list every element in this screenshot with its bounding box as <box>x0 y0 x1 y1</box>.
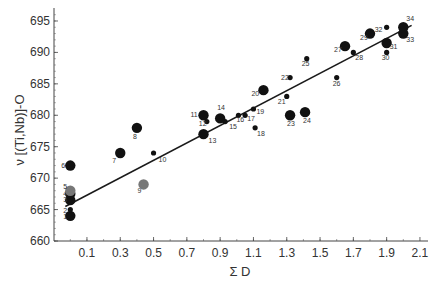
point-label: 18 <box>257 130 265 137</box>
x-tick-label: 2.1 <box>412 246 429 260</box>
data-point-7 <box>115 148 125 158</box>
point-label: 19 <box>256 108 264 115</box>
point-label: 32 <box>375 26 383 33</box>
point-label: 27 <box>334 46 342 53</box>
point-label: 13 <box>209 137 217 144</box>
x-tick-label: 1.5 <box>312 246 329 260</box>
x-tick-label: 0.5 <box>145 246 162 260</box>
y-tick-label: 685 <box>30 77 50 91</box>
y-tick-label: 690 <box>30 45 50 59</box>
point-label: 15 <box>229 123 237 130</box>
point-label: 17 <box>247 115 255 122</box>
x-tick-label: 1.3 <box>278 246 295 260</box>
y-tick-label: 675 <box>30 140 50 154</box>
data-point-20 <box>258 85 268 95</box>
point-label: 8 <box>133 133 137 140</box>
x-tick-label: 1.7 <box>345 246 362 260</box>
data-point-13 <box>198 129 208 139</box>
data-points: 1234567891011121314151617181920212223242… <box>61 15 414 221</box>
point-label: 14 <box>217 104 225 111</box>
x-tick-label: 0.3 <box>112 246 129 260</box>
y-tick-label: 680 <box>30 108 50 122</box>
point-label: 9 <box>138 187 142 194</box>
point-label: 30 <box>382 54 390 61</box>
point-label: 20 <box>251 90 259 97</box>
point-label: 28 <box>355 54 363 61</box>
point-label: 31 <box>390 43 398 50</box>
x-tick-label: 0.9 <box>212 246 229 260</box>
point-label: 16 <box>236 116 244 123</box>
point-label: 7 <box>112 157 116 164</box>
point-label: 12 <box>199 120 207 127</box>
point-label: 23 <box>287 120 295 127</box>
point-label: 34 <box>406 15 414 22</box>
data-point-19 <box>251 106 256 111</box>
y-tick-label: 665 <box>30 203 50 217</box>
point-label: 5 <box>63 183 67 190</box>
point-label: 10 <box>159 156 167 163</box>
point-label: 11 <box>191 111 198 118</box>
y-tick-label: 670 <box>30 171 50 185</box>
point-label: 2 <box>63 207 67 214</box>
data-point-24 <box>300 107 310 117</box>
data-point-23 <box>285 110 295 120</box>
data-point-15 <box>223 119 228 124</box>
point-label: 29 <box>360 34 368 41</box>
x-tick-label: 1.1 <box>245 246 262 260</box>
scatter-chart: 0.10.30.50.70.91.11.31.51.71.92.16606656… <box>0 0 441 284</box>
y-tick-label: 660 <box>30 234 50 248</box>
data-point-8 <box>132 123 142 133</box>
data-point-32 <box>384 25 389 30</box>
x-tick-label: 1.9 <box>378 246 395 260</box>
point-label: 1 <box>63 213 67 220</box>
point-label: 6 <box>61 162 65 169</box>
point-label: 33 <box>406 36 414 43</box>
x-tick-label: 0.1 <box>79 246 96 260</box>
point-label: 25 <box>302 60 310 67</box>
y-tick-label: 695 <box>30 14 50 28</box>
data-point-2 <box>68 207 73 212</box>
point-label: 26 <box>333 80 341 87</box>
point-label: 21 <box>278 98 286 105</box>
point-label: 22 <box>281 74 289 81</box>
x-tick-label: 0.7 <box>179 246 196 260</box>
data-point-6 <box>65 160 75 170</box>
data-point-34 <box>398 22 408 32</box>
x-axis-title: Σ D <box>229 264 250 279</box>
point-label: 24 <box>303 117 311 124</box>
axes: 0.10.30.50.70.91.11.31.51.71.92.16606656… <box>30 8 429 260</box>
data-point-10 <box>151 150 156 155</box>
y-axis-title: ν [(Ti,Nb)]-O <box>12 94 27 165</box>
